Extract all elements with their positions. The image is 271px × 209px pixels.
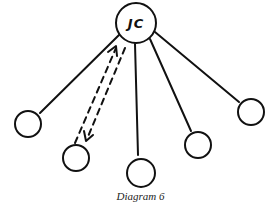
diagram-caption: Diagram 6: [0, 190, 271, 202]
outer-node-5: [238, 99, 264, 125]
outer-node-3: [127, 159, 155, 187]
edge-jc-node-4: [150, 39, 191, 131]
outer-node-2: [63, 145, 89, 171]
dashed-arrow-up: [75, 46, 117, 143]
diagram-canvas: JC: [0, 0, 271, 209]
edge-jc-node-1: [40, 35, 119, 113]
outer-node-4: [185, 132, 211, 158]
center-node-jc: JC: [116, 3, 156, 43]
outer-node-1: [15, 111, 41, 137]
dashed-arrow-down: [84, 48, 125, 141]
edge-jc-node-5: [155, 32, 239, 102]
center-node-label: JC: [125, 16, 144, 31]
edge-jc-node-3: [135, 44, 138, 155]
